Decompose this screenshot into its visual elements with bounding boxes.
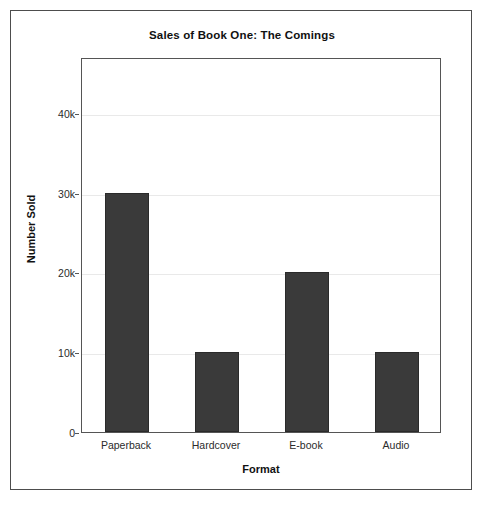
y-tick-label: 20k [29, 267, 75, 279]
chart-title: Sales of Book One: The Comings [11, 29, 473, 41]
y-tick-label: 40k [29, 108, 75, 120]
x-axis-ticks: PaperbackHardcoverE-bookAudio [81, 439, 441, 457]
y-tick-mark [75, 433, 79, 434]
bar-hardcover[interactable] [195, 352, 239, 432]
y-tick-mark [75, 194, 79, 195]
plot-area [81, 58, 441, 433]
x-axis-title: Format [81, 463, 441, 475]
y-tick-label: 30k [29, 188, 75, 200]
x-tick-label: Hardcover [192, 439, 240, 451]
y-tick-label: 10k [29, 347, 75, 359]
y-tick-mark [75, 353, 79, 354]
x-tick-label: E-book [289, 439, 322, 451]
figure-frame: Sales of Book One: The Comings Number So… [10, 10, 472, 490]
x-tick-label: Paperback [101, 439, 151, 451]
y-axis-ticks: 010k20k30k40k [19, 58, 75, 433]
bar-e-book[interactable] [285, 272, 329, 432]
y-tick-mark [75, 114, 79, 115]
bar-paperback[interactable] [105, 193, 149, 432]
y-tick-mark [75, 273, 79, 274]
y-tick-label: 0 [29, 427, 75, 439]
bar-audio[interactable] [375, 352, 419, 432]
x-tick-label: Audio [383, 439, 410, 451]
bar-series [82, 59, 440, 432]
